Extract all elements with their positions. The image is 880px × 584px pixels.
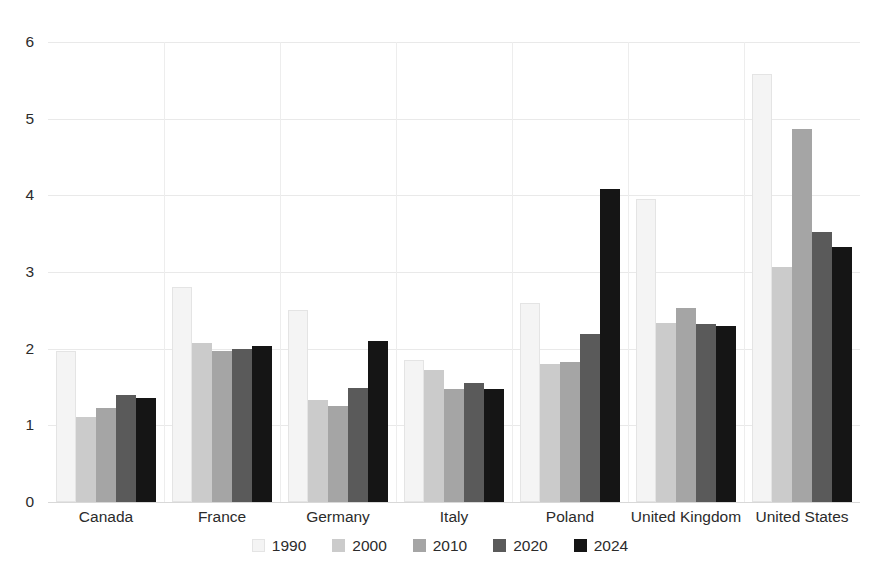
bar-united-states-2010 <box>792 129 812 502</box>
y-tick-label: 3 <box>25 263 34 281</box>
legend-swatch-icon <box>252 539 265 552</box>
bar-italy-2024 <box>484 389 504 502</box>
legend-label: 1990 <box>272 538 306 554</box>
y-tick-label: 2 <box>25 340 34 358</box>
legend-label: 2000 <box>352 538 386 554</box>
x-tick-label: United States <box>755 508 848 526</box>
chart-legend: 19902000201020202024 <box>0 538 880 554</box>
bar-united-states-2020 <box>812 232 832 502</box>
bar-france-2024 <box>252 346 272 502</box>
bar-france-1990 <box>172 287 192 502</box>
bar-group <box>628 42 744 502</box>
legend-item-1990[interactable]: 1990 <box>252 538 306 554</box>
bar-chart: 0123456 CanadaFranceGermanyItalyPolandUn… <box>0 0 880 584</box>
bar-italy-1990 <box>404 360 424 502</box>
bar-italy-2010 <box>444 389 464 502</box>
bar-germany-2020 <box>348 388 368 502</box>
bar-france-2010 <box>212 351 232 502</box>
bar-united-kingdom-2000 <box>656 323 676 502</box>
plot-area <box>48 42 860 502</box>
bar-united-kingdom-2020 <box>696 324 716 502</box>
x-tick-label: Germany <box>306 508 370 526</box>
bar-united-kingdom-2024 <box>716 326 736 502</box>
x-tick-label: France <box>198 508 246 526</box>
legend-label: 2024 <box>594 538 628 554</box>
bar-germany-2010 <box>328 406 348 502</box>
bar-germany-1990 <box>288 310 308 502</box>
legend-item-2020[interactable]: 2020 <box>493 538 547 554</box>
gridline-0 <box>48 502 860 503</box>
legend-swatch-icon <box>332 539 345 552</box>
bar-united-kingdom-1990 <box>636 199 656 502</box>
legend-label: 2010 <box>433 538 467 554</box>
bar-group <box>280 42 396 502</box>
bar-united-states-2024 <box>832 247 852 502</box>
bar-canada-2024 <box>136 398 156 502</box>
x-tick-label: Canada <box>79 508 133 526</box>
bar-italy-2020 <box>464 383 484 502</box>
y-tick-label: 0 <box>25 493 34 511</box>
bar-poland-2020 <box>580 334 600 502</box>
legend-item-2000[interactable]: 2000 <box>332 538 386 554</box>
bar-canada-2010 <box>96 408 116 502</box>
bar-germany-2000 <box>308 400 328 502</box>
bar-group <box>48 42 164 502</box>
bar-france-2020 <box>232 349 252 502</box>
y-tick-label: 5 <box>25 110 34 128</box>
bar-germany-2024 <box>368 341 388 502</box>
y-axis: 0123456 <box>0 0 48 584</box>
legend-swatch-icon <box>493 539 506 552</box>
y-tick-label: 4 <box>25 186 34 204</box>
legend-swatch-icon <box>574 539 587 552</box>
legend-item-2024[interactable]: 2024 <box>574 538 628 554</box>
bar-group <box>396 42 512 502</box>
bar-united-states-1990 <box>752 74 772 502</box>
y-tick-label: 1 <box>25 416 34 434</box>
bar-canada-1990 <box>56 351 76 502</box>
bar-italy-2000 <box>424 370 444 502</box>
bar-group <box>164 42 280 502</box>
bar-poland-1990 <box>520 303 540 502</box>
y-tick-label: 6 <box>25 33 34 51</box>
bar-poland-2010 <box>560 362 580 502</box>
bar-poland-2000 <box>540 364 560 502</box>
x-axis-category-labels: CanadaFranceGermanyItalyPolandUnited Kin… <box>48 508 860 532</box>
bar-united-kingdom-2010 <box>676 308 696 502</box>
bar-group <box>512 42 628 502</box>
bar-united-states-2000 <box>772 267 792 502</box>
x-tick-label: Poland <box>546 508 594 526</box>
bar-poland-2024 <box>600 189 620 502</box>
x-tick-label: United Kingdom <box>631 508 741 526</box>
bar-canada-2000 <box>76 417 96 502</box>
bar-canada-2020 <box>116 395 136 502</box>
legend-item-2010[interactable]: 2010 <box>413 538 467 554</box>
x-tick-label: Italy <box>440 508 468 526</box>
legend-label: 2020 <box>513 538 547 554</box>
bar-group <box>744 42 860 502</box>
bar-france-2000 <box>192 343 212 502</box>
legend-swatch-icon <box>413 539 426 552</box>
